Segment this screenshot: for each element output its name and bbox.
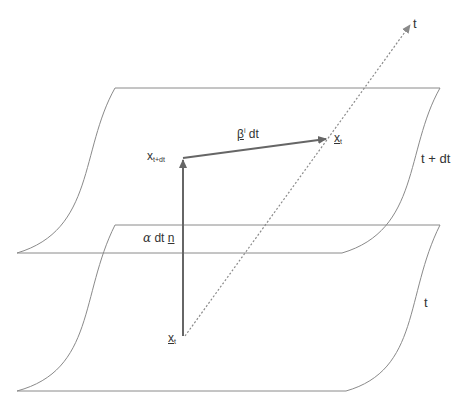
- spacetime-foliation-diagram: t t + dt t xt+dt xt xt α dt n βi dt: [0, 0, 467, 406]
- dt-text: dt: [245, 127, 258, 141]
- upper-surface-label: t + dt: [421, 152, 450, 165]
- point-x-t-plus-dt-label: xt+dt: [147, 150, 165, 163]
- point-subscript: t: [174, 338, 176, 345]
- time-axis: [185, 25, 410, 336]
- lower-surface: [17, 225, 440, 391]
- diagram-graphics: [0, 0, 467, 406]
- shift-vector-label: βi dt: [237, 127, 259, 140]
- normal-vector-label: α dt n: [143, 232, 174, 244]
- beta-symbol: β: [237, 127, 244, 141]
- point-x-t-upper-label: xt: [334, 132, 342, 145]
- point-subscript: t: [340, 138, 342, 145]
- shift-vector-arrow: [183, 139, 326, 158]
- point-subscript: t+dt: [153, 156, 165, 163]
- time-axis-label: t: [413, 17, 417, 30]
- upper-surface: [17, 88, 440, 253]
- point-x-t-lower-label: xt: [168, 332, 176, 345]
- dt-text: dt: [151, 231, 168, 245]
- alpha-symbol: α: [143, 231, 151, 245]
- lower-surface-label: t: [424, 296, 428, 309]
- normal-vector-symbol: n: [168, 231, 175, 245]
